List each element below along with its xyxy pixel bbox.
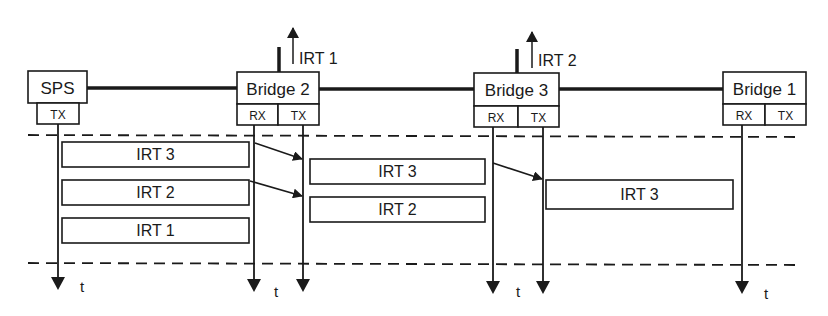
sps-label: SPS	[40, 79, 74, 98]
forward-irt3-bridge3	[493, 163, 542, 179]
frame-irt3-sps-label: IRT 3	[136, 146, 175, 163]
arrow-down-icon	[51, 277, 65, 290]
forward-irt3-bridge2	[255, 143, 302, 159]
bridge1-tx-label: TX	[778, 109, 793, 123]
bridge2-rx-label: RX	[249, 109, 266, 123]
irt-timing-diagram: IRT 1 IRT 2 t t t t SPS TX Bridge 2 RX T…	[0, 0, 828, 316]
time-label-bridge2: t	[274, 283, 279, 300]
arrow-head-icon	[526, 31, 538, 42]
irt2-output-label: IRT 2	[538, 52, 577, 69]
sps-tx-label: TX	[50, 108, 65, 122]
frame-irt2-sps-label: IRT 2	[136, 184, 175, 201]
cycle-end-line	[28, 263, 795, 265]
bridge3-label: Bridge 3	[485, 81, 548, 100]
bridge2-label: Bridge 2	[246, 80, 309, 99]
time-label-bridge3: t	[516, 283, 521, 300]
bridge2-tx-label: TX	[291, 109, 306, 123]
bridge3-rx-label: RX	[488, 111, 505, 125]
frame-irt3-bridge3-label: IRT 3	[620, 186, 659, 203]
arrow-down-icon	[296, 279, 310, 292]
frame-irt3-bridge2-label: IRT 3	[378, 163, 417, 180]
arrow-down-icon	[735, 281, 749, 294]
arrow-down-icon	[486, 281, 500, 294]
bridge1-rx-label: RX	[736, 109, 753, 123]
time-label-bridge1: t	[764, 285, 769, 302]
bridge3-tx-label: TX	[531, 111, 546, 125]
time-label-sps: t	[80, 278, 85, 295]
irt1-output-label: IRT 1	[299, 50, 338, 67]
arrow-down-icon	[247, 279, 261, 292]
frame-irt2-bridge2-label: IRT 2	[378, 201, 417, 218]
network-links	[87, 47, 723, 89]
frame-irt1-sps-label: IRT 1	[136, 222, 175, 239]
arrow-down-icon	[536, 281, 550, 294]
cycle-start-line	[28, 135, 795, 137]
bridge1-label: Bridge 1	[733, 80, 796, 99]
forward-irt2-bridge2	[250, 181, 302, 196]
arrow-head-icon	[287, 27, 299, 38]
